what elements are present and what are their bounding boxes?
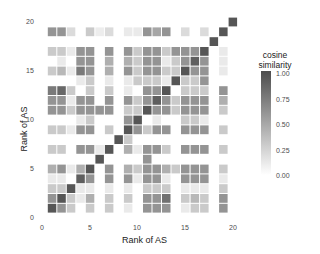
- heatmap-cell: [143, 125, 152, 134]
- heatmap-cell: [86, 67, 95, 76]
- heatmap-cell: [86, 145, 95, 154]
- heatmap-cell: [162, 194, 171, 203]
- heatmap-cell: [143, 145, 152, 154]
- heatmap-cell: [105, 76, 114, 85]
- heatmap-cell: [86, 86, 95, 95]
- heatmap-cell: [200, 174, 209, 183]
- heatmap-cell: [181, 76, 190, 85]
- heatmap-cell: [191, 116, 200, 125]
- heatmap-cell: [162, 96, 171, 105]
- heatmap-cell: [124, 174, 132, 183]
- heatmap-cell: [86, 27, 95, 36]
- heatmap-cell: [219, 67, 228, 76]
- heatmap-cell: [181, 174, 190, 183]
- heatmap-cell: [191, 194, 200, 203]
- heatmap-cell: [57, 27, 66, 36]
- heatmap-cell: [76, 96, 85, 105]
- heatmap-cell: [133, 174, 142, 183]
- heatmap-cell: [124, 67, 132, 76]
- heatmap-cell: [191, 76, 200, 85]
- heatmap-cell: [181, 194, 190, 203]
- heatmap-cell: [124, 27, 132, 36]
- heatmap-cell: [76, 165, 85, 174]
- heatmap-cell: [105, 47, 114, 56]
- heatmap-cell: [191, 165, 200, 174]
- heatmap-cell: [67, 47, 76, 56]
- heatmap-cell: [143, 27, 152, 36]
- heatmap-cell: [153, 204, 162, 213]
- heatmap-cell: [172, 165, 181, 174]
- heatmap-cell: [172, 47, 181, 56]
- heatmap-cell: [133, 106, 142, 115]
- heatmap-cell: [124, 76, 132, 85]
- legend-label: 0.00: [276, 172, 290, 179]
- heatmap-cell: [143, 47, 152, 56]
- heatmap-cell: [172, 76, 181, 85]
- heatmap-cell: [133, 125, 142, 134]
- heatmap-cell: [124, 106, 132, 115]
- heatmap-cell: [76, 174, 85, 183]
- heatmap-cell: [57, 165, 66, 174]
- heatmap-cell: [48, 145, 57, 154]
- heatmap-cell: [162, 67, 171, 76]
- heatmap-cell: [153, 106, 162, 115]
- heatmap-cell: [48, 165, 57, 174]
- heatmap-cell: [153, 96, 162, 105]
- x-tick: 15: [181, 224, 189, 231]
- heatmap-cell: [76, 125, 85, 134]
- heatmap-cell: [200, 125, 209, 134]
- heatmap-cell: [219, 96, 228, 105]
- heatmap-cell: [48, 47, 57, 56]
- heatmap-cell: [219, 125, 228, 134]
- legend-label: 0.25: [276, 147, 290, 154]
- heatmap-cell: [86, 204, 95, 213]
- heatmap-cell: [105, 184, 114, 193]
- heatmap-cell: [191, 174, 200, 183]
- heatmap-cell: [133, 57, 142, 66]
- heatmap-cell: [191, 106, 200, 115]
- heatmap-cell: [219, 145, 228, 154]
- heatmap-cell: [105, 194, 114, 203]
- legend-colorbar: [261, 71, 271, 175]
- heatmap-cell: [162, 145, 171, 154]
- y-tick: 5: [30, 165, 34, 172]
- heatmap-cell: [67, 204, 76, 213]
- heatmap-cell: [172, 96, 181, 105]
- heatmap-cell: [48, 106, 57, 115]
- heatmap-cell: [57, 194, 66, 203]
- x-tick: 10: [133, 224, 141, 231]
- heatmap-cell: [67, 165, 76, 174]
- heatmap-cell: [133, 165, 142, 174]
- heatmap-cell: [76, 57, 85, 66]
- heatmap-cell: [143, 174, 152, 183]
- heatmap-cell: [124, 135, 132, 144]
- heatmap-cell: [57, 67, 66, 76]
- heatmap-cell: [200, 204, 209, 213]
- heatmap-cell: [105, 165, 114, 174]
- x-tick: 5: [88, 224, 92, 231]
- x-axis-title: Rank of AS: [122, 235, 167, 245]
- heatmap-cell: [86, 116, 95, 125]
- heatmap-cell: [153, 174, 162, 183]
- heatmap-cell: [76, 106, 85, 115]
- heatmap-cell: [67, 96, 76, 105]
- heatmap-cell: [124, 57, 132, 66]
- heatmap-cell: [133, 116, 142, 125]
- heatmap-cell: [124, 125, 132, 134]
- legend-title: cosine similarity: [252, 50, 298, 70]
- heatmap-cell: [153, 27, 162, 36]
- heatmap-cell: [210, 37, 219, 46]
- heatmap-cell: [219, 184, 228, 193]
- heatmap-cell: [191, 96, 200, 105]
- heatmap-cell: [153, 194, 162, 203]
- heatmap-cell: [133, 96, 142, 105]
- heatmap-cell: [95, 145, 104, 154]
- y-tick: 0: [30, 214, 34, 221]
- heatmap-cell: [143, 86, 152, 95]
- heatmap-cell: [86, 194, 95, 203]
- heatmap-cell: [143, 155, 152, 164]
- heatmap-cell: [200, 86, 209, 95]
- heatmap-cell: [95, 106, 104, 115]
- y-tick: 15: [26, 67, 34, 74]
- heatmap-cell: [143, 57, 152, 66]
